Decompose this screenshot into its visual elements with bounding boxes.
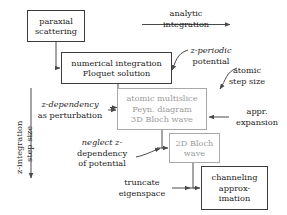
wire-multislice-to-2dbloch xyxy=(157,130,168,148)
label-line: integration xyxy=(153,19,219,30)
box-line: imation xyxy=(219,193,250,204)
wire-paraxial-to-numerical xyxy=(56,42,60,68)
box-line: scattering xyxy=(35,26,77,37)
label-line: expansion xyxy=(231,117,283,128)
label-line: neglect z- xyxy=(69,137,135,148)
label-atomic-step-size: atomic step size xyxy=(222,65,272,86)
label-line: step size xyxy=(222,76,272,87)
label-line: eigenspace xyxy=(112,188,172,199)
diagram-canvas: paraxial scattering numerical integratio… xyxy=(0,0,287,215)
label-line: as perturbation xyxy=(33,110,107,121)
label-line: truncate xyxy=(112,177,172,188)
label-z-periodic-potential: z-periodic potential xyxy=(184,45,238,66)
box-line: 2D Bloch xyxy=(176,138,214,149)
box-line: Feyn. diagram xyxy=(132,104,192,115)
axis-label-line: step size xyxy=(24,126,34,162)
label-z-dependency-as-perturbation: z-dependency as perturbation xyxy=(33,99,107,120)
label-analytic-integration: analytic integration xyxy=(153,8,219,29)
box-line: numerical integration xyxy=(71,58,162,69)
label-appr-expansion: appr. expansion xyxy=(231,106,283,127)
box-line: 3D Bloch wave xyxy=(131,114,193,125)
label-line: of potential xyxy=(69,158,135,169)
curve-neglect-z-dependency xyxy=(136,149,160,158)
box-line: Floquet solution xyxy=(83,68,151,79)
label-line: analytic xyxy=(153,8,219,19)
label-line: z-periodic xyxy=(184,45,238,56)
axis-label-step-size: step size xyxy=(24,126,34,162)
box-numerical-integration[interactable]: numerical integration Floquet solution xyxy=(61,52,172,84)
label-neglect-z-dependency-of-potential: neglect z- dependency of potential xyxy=(69,137,135,169)
box-line: channeling xyxy=(212,172,258,183)
box-line: paraxial xyxy=(39,16,73,27)
label-truncate-eigenspace: truncate eigenspace xyxy=(112,177,172,198)
label-line: appr. xyxy=(231,106,283,117)
box-line: wave xyxy=(184,148,205,159)
label-line: z-dependency xyxy=(33,99,107,110)
box-line: atomic multislice xyxy=(126,93,197,104)
axis-label-z-integration: z-integration xyxy=(14,121,24,174)
axis-label-line: z-integration xyxy=(14,121,24,174)
box-channeling-approximation[interactable]: channeling approx- imation xyxy=(201,166,268,210)
wire-2dbloch-to-channeling xyxy=(188,163,200,188)
box-line: approx- xyxy=(219,183,250,194)
box-paraxial-scattering[interactable]: paraxial scattering xyxy=(27,10,85,42)
box-atomic-multislice[interactable]: atomic multislice Feyn. diagram 3D Bloch… xyxy=(117,88,207,130)
label-line: dependency xyxy=(69,148,135,159)
box-2d-bloch-wave[interactable]: 2D Bloch wave xyxy=(169,133,220,163)
label-line: atomic xyxy=(222,65,272,76)
